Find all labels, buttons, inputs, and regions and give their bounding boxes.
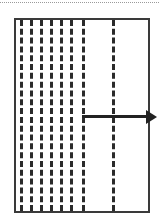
direction-arrow-head-icon xyxy=(146,110,157,124)
diagram-canvas xyxy=(0,0,159,224)
dashed-line xyxy=(50,20,53,211)
dashed-line xyxy=(40,20,43,211)
dashed-line xyxy=(30,20,33,211)
dashed-line xyxy=(20,20,23,211)
dotted-rule-icon xyxy=(0,2,159,3)
dashed-line xyxy=(70,20,73,211)
direction-arrow-shaft xyxy=(82,115,146,118)
dashed-line xyxy=(60,20,63,211)
